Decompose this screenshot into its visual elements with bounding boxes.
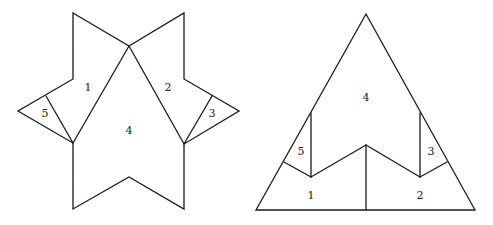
star-cut-line — [73, 46, 129, 143]
triangle-cut-line — [311, 145, 366, 177]
triangle-cut-line — [420, 162, 447, 177]
piece-label-3: 3 — [209, 107, 216, 120]
triangle-figure: 45312 — [256, 14, 475, 210]
star-cut-line — [129, 46, 184, 144]
piece-label-4: 4 — [363, 91, 370, 104]
piece-label-2: 2 — [417, 189, 424, 202]
star-outline — [18, 13, 239, 209]
piece-label-4: 4 — [126, 124, 133, 137]
piece-label-2: 2 — [165, 81, 172, 94]
piece-label-5: 5 — [42, 107, 49, 120]
dissection-diagram: 12345 45312 — [0, 0, 493, 225]
star-cut-line — [46, 96, 73, 143]
piece-label-5: 5 — [298, 145, 305, 158]
star-cut-line — [184, 96, 212, 144]
triangle-cut-line — [284, 162, 311, 177]
piece-label-1: 1 — [85, 81, 92, 94]
star-figure: 12345 — [18, 13, 239, 209]
triangle-cut-line — [366, 145, 420, 177]
piece-label-1: 1 — [308, 189, 315, 202]
piece-label-3: 3 — [428, 145, 435, 158]
